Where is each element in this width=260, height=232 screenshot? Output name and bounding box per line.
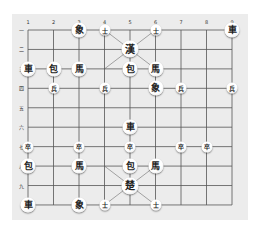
row-label: 二 <box>19 47 24 52</box>
piece-cho[interactable]: 士 <box>99 199 110 210</box>
piece-han[interactable]: 馬 <box>72 61 87 76</box>
piece-cho[interactable]: 卒 <box>125 141 136 152</box>
piece-cho[interactable]: 包 <box>21 159 36 174</box>
piece-han[interactable]: 包 <box>123 61 138 76</box>
piece-cho[interactable]: 士 <box>150 199 161 210</box>
column-label: 7 <box>179 20 182 25</box>
piece-han[interactable]: 象 <box>72 23 87 38</box>
piece-cho[interactable]: 卒 <box>176 141 187 152</box>
piece-cho[interactable]: 馬 <box>72 159 87 174</box>
piece-han[interactable]: 兵 <box>176 83 187 94</box>
piece-cho[interactable]: 卒 <box>23 141 34 152</box>
column-label: 5 <box>128 20 131 25</box>
piece-cho[interactable]: 象 <box>72 197 87 212</box>
piece-cho[interactable]: 包 <box>123 159 138 174</box>
piece-cho[interactable]: 卒 <box>74 141 85 152</box>
piece-han[interactable]: 士 <box>150 25 161 36</box>
column-label: 8 <box>205 20 208 25</box>
piece-han[interactable]: 車 <box>21 61 36 76</box>
row-label: 一 <box>19 28 24 33</box>
piece-cho[interactable]: 車 <box>21 197 36 212</box>
piece-han[interactable]: 包 <box>46 61 61 76</box>
row-label: 六 <box>19 125 24 130</box>
piece-cho[interactable]: 卒 <box>201 141 212 152</box>
column-label: 1 <box>26 20 29 25</box>
piece-han[interactable]: 馬 <box>148 61 163 76</box>
piece-han[interactable]: 兵 <box>227 83 238 94</box>
piece-cho[interactable]: 楚 <box>122 177 139 194</box>
row-label: 五 <box>19 105 24 110</box>
piece-han[interactable]: 象 <box>148 81 163 96</box>
piece-han[interactable]: 漢 <box>122 41 139 58</box>
row-label: 九 <box>19 183 24 188</box>
piece-cho[interactable]: 車 <box>123 120 138 135</box>
board-grid <box>0 0 260 232</box>
row-label: 四 <box>19 86 24 91</box>
piece-cho[interactable]: 馬 <box>148 159 163 174</box>
piece-han[interactable]: 兵 <box>99 83 110 94</box>
column-label: 2 <box>52 20 55 25</box>
piece-han[interactable]: 兵 <box>48 83 59 94</box>
piece-han[interactable]: 士 <box>99 25 110 36</box>
piece-han[interactable]: 車 <box>225 23 240 38</box>
